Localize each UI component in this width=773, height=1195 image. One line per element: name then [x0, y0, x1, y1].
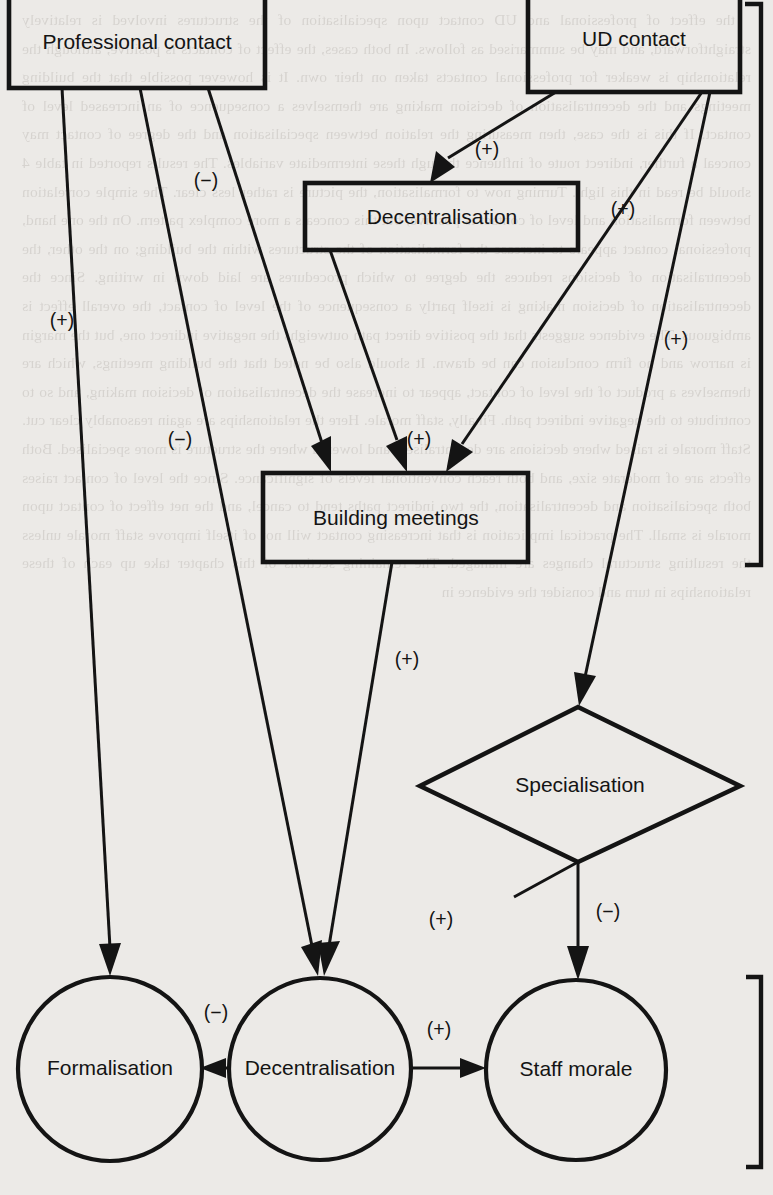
node-label-decentralisation-circle: Decentralisation — [245, 1056, 396, 1079]
node-specialisation: Specialisation — [420, 707, 740, 862]
node-staff-morale: Staff morale — [486, 980, 666, 1160]
edge-decentralisation-box-to-building-meetings — [330, 250, 407, 472]
sign-ud-to-meetings: (+) — [611, 198, 635, 220]
sign-specialisation-left: (+) — [429, 908, 453, 930]
node-label-specialisation: Specialisation — [515, 773, 645, 796]
node-decentralisation-circle: Decentralisation — [229, 978, 411, 1160]
node-formalisation: Formalisation — [18, 977, 202, 1161]
sign-professional-to-decentralisation: (−) — [168, 428, 192, 450]
edge-ud-contact-to-specialisation — [574, 92, 710, 706]
node-decentralisation-box: Decentralisation — [305, 183, 578, 250]
node-label-staff-morale: Staff morale — [520, 1057, 633, 1080]
sign-ud-to-specialisation: (+) — [664, 328, 688, 350]
sign-meetings-to-decentralisation: (+) — [395, 648, 419, 670]
edge-specialisation-to-staff-morale — [567, 862, 589, 980]
diagram-canvas: Professional contact UD contact Decentra… — [0, 0, 773, 1195]
sign-ud-to-decentralisation: (+) — [475, 138, 499, 160]
node-label-professional-contact: Professional contact — [42, 30, 231, 53]
edge-specialisation-left-leg — [514, 862, 578, 897]
edge-professional-contact-to-formalisation — [62, 88, 121, 976]
node-label-building-meetings: Building meetings — [313, 506, 479, 529]
node-label-formalisation: Formalisation — [47, 1056, 173, 1079]
node-label-ud-contact: UD contact — [582, 27, 686, 50]
sign-professional-to-meetings: (−) — [194, 169, 218, 191]
sign-decentralisation-to-formalisation: (−) — [204, 1001, 228, 1023]
sign-decentralisation-to-morale: (+) — [427, 1018, 451, 1040]
node-professional-contact: Professional contact — [9, 0, 265, 88]
node-ud-contact: UD contact — [528, 0, 740, 92]
edge-decentralisation-circle-to-formalisation — [200, 1058, 228, 1078]
edge-professional-contact-to-building-meetings — [208, 88, 331, 472]
node-label-decentralisation-box: Decentralisation — [367, 205, 518, 228]
sign-professional-to-formalisation: (+) — [50, 309, 74, 331]
edge-decentralisation-circle-to-staff-morale — [411, 1058, 486, 1078]
scanned-figure-page: the effect of professional and UD contac… — [0, 0, 773, 1195]
upper-group-bracket — [745, 4, 761, 565]
edge-building-meetings-to-decentralisation-circle — [318, 562, 392, 976]
lower-group-bracket — [746, 977, 761, 1167]
edge-professional-contact-to-decentralisation-circle — [140, 88, 322, 976]
node-building-meetings: Building meetings — [263, 473, 528, 562]
sign-decentralisation-to-meetings: (+) — [407, 428, 431, 450]
sign-specialisation-to-morale: (−) — [596, 900, 620, 922]
